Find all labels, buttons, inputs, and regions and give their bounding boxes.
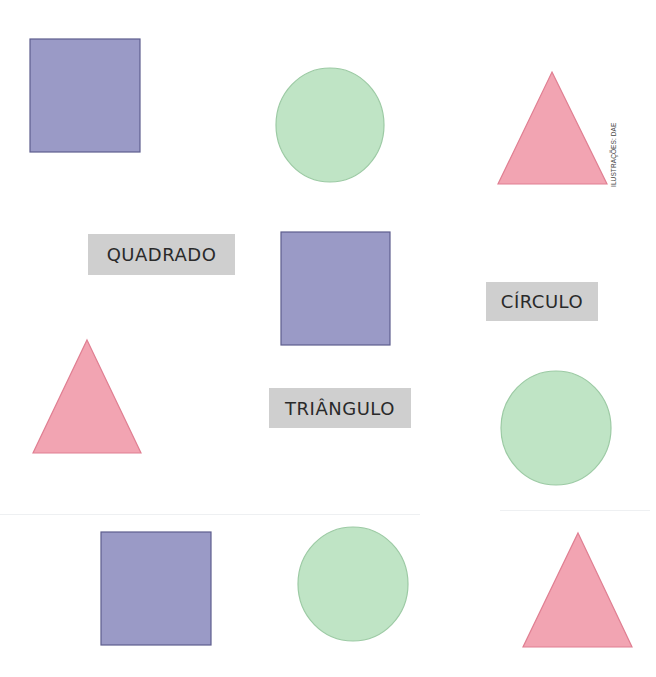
- circle-shape[interactable]: [276, 68, 384, 182]
- circle-shape[interactable]: [298, 527, 408, 641]
- triangle-shape[interactable]: [498, 72, 607, 184]
- shapes-layer: [0, 0, 656, 677]
- label-circulo[interactable]: CÍRCULO: [486, 282, 598, 321]
- label-triangulo[interactable]: TRIÂNGULO: [269, 388, 411, 428]
- shapes-worksheet: QUADRADO CÍRCULO TRIÂNGULO ILUSTRAÇÕES: …: [0, 0, 656, 677]
- triangle-shape[interactable]: [523, 533, 632, 647]
- label-circulo-text: CÍRCULO: [501, 291, 583, 312]
- label-triangulo-text: TRIÂNGULO: [285, 398, 395, 419]
- triangle-shape[interactable]: [33, 340, 141, 453]
- label-quadrado[interactable]: QUADRADO: [88, 234, 235, 275]
- square-shape[interactable]: [101, 532, 211, 645]
- illustration-credit: ILUSTRAÇÕES: DAE: [610, 123, 617, 187]
- circle-shape[interactable]: [501, 371, 611, 485]
- square-shape[interactable]: [281, 232, 390, 345]
- square-shape[interactable]: [30, 39, 140, 152]
- label-quadrado-text: QUADRADO: [107, 244, 217, 265]
